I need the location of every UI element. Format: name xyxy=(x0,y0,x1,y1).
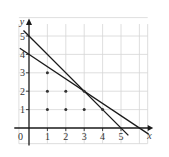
y-tick-label: 3 xyxy=(20,67,25,78)
lattice-point xyxy=(64,90,67,93)
lattice-point xyxy=(46,71,49,74)
y-tick-label: 2 xyxy=(20,86,25,97)
x-tick-label: 2 xyxy=(63,131,68,142)
x-tick-label: 1 xyxy=(45,131,50,142)
grid-lines xyxy=(19,18,148,144)
lattice-point xyxy=(64,108,67,111)
y-tick-label: 5 xyxy=(20,31,25,42)
origin-label: 0 xyxy=(18,131,23,142)
x-tick-label: 4 xyxy=(100,131,105,142)
lattice-point xyxy=(83,108,86,111)
x-tick-label: 3 xyxy=(82,131,87,142)
x-axis-label: x xyxy=(146,130,152,141)
y-tick-label: 1 xyxy=(20,104,25,115)
lattice-point xyxy=(46,108,49,111)
graph: 12345123450xy xyxy=(0,0,169,157)
boundary-line xyxy=(23,30,128,135)
lattice-point xyxy=(83,90,86,93)
axes xyxy=(14,19,153,146)
lattice-point xyxy=(101,108,104,111)
y-tick-label: 4 xyxy=(20,49,25,60)
x-tick-label: 5 xyxy=(119,131,124,142)
y-axis-label: y xyxy=(19,16,25,27)
lattice-point xyxy=(46,90,49,93)
y-axis-arrow-icon xyxy=(26,19,32,25)
